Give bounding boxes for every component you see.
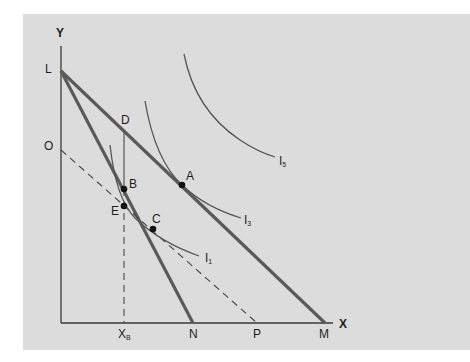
indifference-curve-I3 [145, 101, 241, 218]
label-E: E [111, 204, 119, 218]
point-C [150, 226, 157, 233]
label-I1: I1 [205, 251, 212, 265]
budget-line-LN [61, 71, 193, 323]
indifference-curve-I5 [184, 54, 275, 157]
label-I3: I3 [244, 213, 251, 227]
label-XB: XB [118, 327, 131, 341]
label-I5: I5 [279, 154, 286, 168]
y-axis-label: Y [56, 26, 64, 40]
label-A: A [186, 169, 194, 183]
label-B: B [129, 177, 137, 191]
label-M: M [319, 327, 329, 341]
label-D: D [121, 113, 130, 127]
budget-line-LM [61, 71, 325, 323]
point-A [179, 182, 186, 189]
label-O: O [44, 139, 53, 153]
label-N: N [189, 327, 198, 341]
point-B [121, 186, 128, 193]
label-L: L [45, 62, 52, 76]
indifference-curve-diagram: Y X L O D A B E C N P M XB I1 I3 I5 [0, 0, 470, 362]
point-E [121, 203, 128, 210]
label-P: P [253, 327, 261, 341]
label-C: C [152, 212, 161, 226]
x-axis-label: X [339, 317, 347, 331]
